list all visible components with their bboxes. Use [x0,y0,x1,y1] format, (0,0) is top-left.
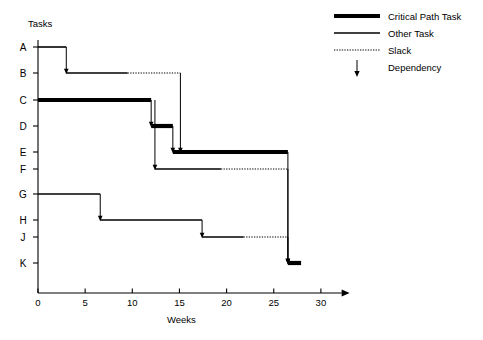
task-row-label-D: D [19,121,26,132]
dependency-B-to-E [178,73,183,153]
legend-item-slack: Slack [334,45,411,56]
x-tick-label-30: 30 [316,297,327,308]
gantt-chart: 051015202530WeeksTasksABCDEFGHJKCritical… [0,0,483,340]
task-row-label-H: H [19,215,26,226]
dependency-A-to-B [64,47,69,74]
legend-label-dependency: Dependency [388,62,442,73]
task-row-label-B: B [20,68,27,79]
dependency-group [64,47,290,264]
x-axis-arrowhead [342,290,350,297]
legend-item-critical: Critical Path Task [334,11,461,22]
dependency-C-to-F [153,100,158,170]
x-tick-label-5: 5 [83,297,88,308]
x-tick-label-15: 15 [174,297,185,308]
dependency-G-to-H [98,194,103,221]
task-row-label-J: J [21,232,26,243]
legend-swatch-dependency-arrowhead [354,71,359,77]
dependency-C-to-D [149,100,154,127]
task-row-label-A: A [20,42,27,53]
gantt-chart-canvas: 051015202530WeeksTasksABCDEFGHJKCritical… [0,0,483,340]
x-tick-label-10: 10 [127,297,138,308]
task-row-label-G: G [19,189,27,200]
legend-label-slack: Slack [388,45,411,56]
y-axis-title: Tasks [28,18,53,29]
task-row-label-E: E [20,147,27,158]
x-tick-label-0: 0 [35,297,40,308]
task-row-label-F: F [20,164,26,175]
dependency-D-to-E [171,126,176,153]
dependency-J-to-K [286,237,291,264]
task-bars-group [38,47,301,263]
legend-item-dependency: Dependency [354,60,441,77]
dependency-H-to-J [200,220,205,238]
y-axis-ticks: ABCDEFGHJK [19,42,38,269]
legend: Critical Path TaskOther TaskSlackDepende… [334,11,461,77]
legend-item-other: Other Task [334,28,434,39]
x-tick-label-20: 20 [221,297,232,308]
legend-label-critical: Critical Path Task [388,11,461,22]
x-tick-label-25: 25 [268,297,279,308]
x-axis-ticks: 051015202530 [35,289,326,309]
legend-label-other: Other Task [388,28,434,39]
task-row-label-K: K [20,258,27,269]
x-axis-title: Weeks [167,314,196,325]
task-row-label-C: C [19,95,26,106]
